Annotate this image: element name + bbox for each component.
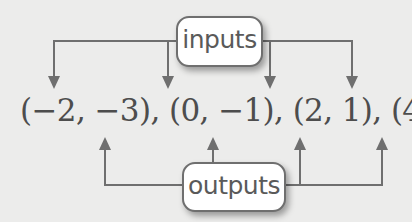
inputs-label: inputs <box>176 16 263 67</box>
arrow-down-icon <box>48 76 60 89</box>
arrow-up-icon <box>207 137 219 150</box>
inputs-connector-line <box>262 41 352 80</box>
arrow-down-icon <box>162 76 174 89</box>
arrow-up-icon <box>294 137 306 150</box>
arrow-up-icon <box>99 137 111 150</box>
inputs-connector-line <box>54 41 176 80</box>
arrow-up-icon <box>376 137 388 150</box>
outputs-label: outputs <box>182 162 286 212</box>
arrow-down-icon <box>346 76 358 89</box>
arrow-down-icon <box>264 76 276 89</box>
ordered-pairs: (−2, −3), (0, −1), (2, 1), (4, 3) <box>20 92 400 128</box>
outputs-connector-line <box>105 146 182 185</box>
